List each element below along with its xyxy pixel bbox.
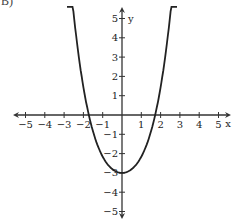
y-tick-label: −2 [103, 148, 118, 159]
x-tick-label: 4 [196, 119, 202, 130]
x-tick-label: 3 [177, 119, 183, 130]
y-tick-label: 5 [112, 13, 118, 24]
y-tick-label: 3 [112, 52, 118, 63]
x-tick-label: 5 [215, 119, 221, 130]
y-tick-label: 1 [112, 90, 118, 101]
x-tick-label: 1 [138, 119, 144, 130]
x-tick-label: −4 [37, 119, 52, 130]
coordinate-plane: −5−4−3−2−11234554321−1−2−3−4−5xy [0, 0, 233, 220]
graph-figure: B) −5−4−3−2−11234554321−1−2−3−4−5xy [0, 0, 233, 220]
x-tick-label: −2 [76, 119, 91, 130]
y-tick-label: 2 [112, 71, 118, 82]
x-tick-label: 2 [157, 119, 163, 130]
x-tick-label: −5 [18, 119, 33, 130]
y-tick-label: −4 [103, 187, 118, 198]
y-tick-label: 4 [112, 32, 118, 43]
y-axis-label: y [127, 13, 134, 24]
y-tick-label: −5 [103, 206, 118, 217]
x-axis-label: x [225, 118, 231, 129]
x-tick-label: −3 [57, 119, 72, 130]
y-tick-label: −1 [103, 129, 118, 140]
y-tick-label: −3 [103, 167, 118, 178]
